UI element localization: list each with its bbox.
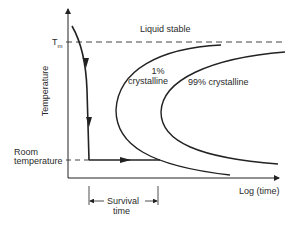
tm-label: Tm <box>52 37 63 51</box>
curve-99-percent <box>161 52 285 164</box>
curve-1-label-bottom: crystalline <box>128 76 168 86</box>
curve-1-label-top: 1% <box>143 66 173 76</box>
room-temp-label-2: temperature <box>14 156 63 166</box>
survival-label-1: Survival <box>107 196 139 206</box>
cooling-arrow-icon-2 <box>86 117 92 127</box>
survival-label-2: time <box>113 206 130 216</box>
curve-99-label: 99% crystalline <box>188 77 249 87</box>
x-axis-label: Log (time) <box>239 186 280 196</box>
cooling-arrow-icon <box>83 58 90 68</box>
cooling-path <box>72 26 89 160</box>
liquid-stable-label: Liquid stable <box>140 24 191 34</box>
y-axis-label: Temperature <box>40 56 50 126</box>
hold-arrow-icon <box>120 157 131 163</box>
